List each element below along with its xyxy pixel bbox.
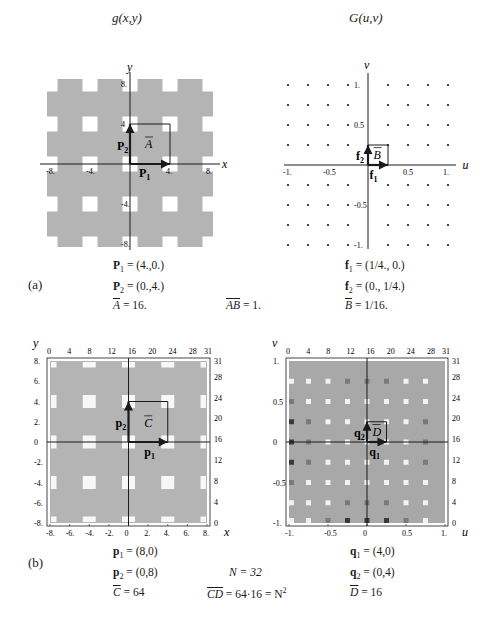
u-tick-label: -0.5 xyxy=(323,168,336,177)
delta-dot xyxy=(287,224,289,226)
delta-dot xyxy=(447,244,449,246)
spectrum-sample xyxy=(289,399,294,404)
bottom-tick-label: -8. xyxy=(46,529,55,538)
delta-dot xyxy=(387,244,389,246)
white-hole xyxy=(43,237,58,252)
delta-dot xyxy=(407,124,409,126)
spectrum-sample xyxy=(345,379,350,384)
eq-p2: p2 = (0,8) xyxy=(113,566,158,581)
spectrum-sample xyxy=(423,399,428,404)
bottom-tick-label: 0 xyxy=(125,529,129,538)
delta-dot xyxy=(287,84,289,86)
white-sample-hole xyxy=(161,517,174,523)
eq-C: C = 64 xyxy=(113,586,144,598)
spectrum-sample xyxy=(384,379,389,384)
spectrum-sample xyxy=(326,480,331,485)
eq-B-value: = 1/16. xyxy=(355,299,388,311)
delta-dot xyxy=(387,84,389,86)
bottom-tick-label: -4. xyxy=(85,529,94,538)
delta-dot xyxy=(307,104,309,106)
right-index-tick: 31 xyxy=(214,357,222,366)
left-tick-label: 6. xyxy=(34,377,40,386)
spectrum-sample xyxy=(326,419,331,424)
eq-D-value: = 16 xyxy=(361,586,382,598)
white-hole xyxy=(83,237,98,252)
left-tick-label: 2. xyxy=(34,418,40,427)
delta-dot xyxy=(327,144,329,146)
delta-dot xyxy=(307,184,309,186)
left-tick-label: -6. xyxy=(34,499,43,508)
eq-CD: CD = 64·16 = N2 xyxy=(207,586,287,600)
spectrum-sample xyxy=(384,480,389,485)
top-index-tick: 28 xyxy=(189,347,197,356)
delta-dot xyxy=(407,104,409,106)
delta-dot xyxy=(407,244,409,246)
u-tick-label: 1. xyxy=(443,168,449,177)
delta-dot xyxy=(407,184,409,186)
delta-dot xyxy=(447,84,449,86)
eq-q1-value: = (4,0) xyxy=(363,545,394,557)
spectrum-sample xyxy=(423,379,428,384)
eq-D: D = 16 xyxy=(350,586,382,598)
bottom-tick-label: 6. xyxy=(183,529,189,538)
top-index-tick: 4 xyxy=(306,347,310,356)
top-index-tick: 31 xyxy=(442,347,450,356)
delta-dot xyxy=(387,124,389,126)
right-index-tick: 20 xyxy=(214,414,222,423)
delta-dot xyxy=(307,84,309,86)
spectrum-sample xyxy=(326,460,331,465)
x-tick-label: 4. xyxy=(166,167,172,176)
eq-p2-value: = (0,8) xyxy=(126,566,157,578)
delta-dot xyxy=(307,224,309,226)
y-tick-label: -4. xyxy=(121,200,130,209)
delta-dot xyxy=(347,104,349,106)
delta-dot xyxy=(347,244,349,246)
delta-dot xyxy=(287,124,289,126)
spectrum-sample xyxy=(404,518,409,523)
delta-dot xyxy=(327,224,329,226)
white-hole xyxy=(163,197,178,212)
delta-dot xyxy=(307,144,309,146)
delta-dot xyxy=(407,144,409,146)
eq-f1-value: = (1/4., 0.) xyxy=(356,259,405,271)
eq-P2-value: = (0.,4.) xyxy=(127,280,164,292)
right-index-tick: 28 xyxy=(452,373,460,382)
white-sample-hole xyxy=(161,362,174,368)
v-tick-label: 0.5 xyxy=(354,121,364,130)
spectrum-sample xyxy=(345,500,350,505)
delta-dot xyxy=(307,204,309,206)
spectrum-sample xyxy=(306,419,311,424)
spectrum-sample xyxy=(326,500,331,505)
delta-dot xyxy=(287,244,289,246)
top-index-tick: 31 xyxy=(204,347,212,356)
eq-A-value: = 16. xyxy=(123,299,147,311)
spectrum-sample xyxy=(306,500,311,505)
top-index-tick: 0 xyxy=(47,347,51,356)
right-index-tick: 8 xyxy=(214,477,218,486)
spectrum-sample xyxy=(345,419,350,424)
bottom-tick-label: -0.5 xyxy=(324,529,337,538)
y-axis-label: y xyxy=(126,60,133,74)
spectrum-sample xyxy=(404,419,409,424)
top-index-tick: 24 xyxy=(169,347,177,356)
spectrum-sample xyxy=(404,399,409,404)
spectrum-sample xyxy=(423,518,428,523)
bottom-tick-label: 0.5 xyxy=(402,529,412,538)
delta-dot xyxy=(427,144,429,146)
delta-dot xyxy=(287,144,289,146)
delta-dot xyxy=(327,124,329,126)
spectrum-sample xyxy=(384,460,389,465)
right-index-tick: 24 xyxy=(452,394,460,403)
top-index-tick: 12 xyxy=(346,347,354,356)
delta-dot xyxy=(387,104,389,106)
white-sample-hole xyxy=(201,476,207,489)
spectrum-sample xyxy=(404,500,409,505)
spectrum-sample xyxy=(306,518,311,523)
right-index-tick: 12 xyxy=(214,456,222,465)
eq-AB: AB = 1. xyxy=(226,299,261,311)
panel-b-label: (b) xyxy=(28,555,43,571)
delta-dot xyxy=(407,224,409,226)
bottom-tick-label: -2. xyxy=(105,529,114,538)
bottom-tick-label: 0 xyxy=(363,529,367,538)
delta-dot xyxy=(447,184,449,186)
